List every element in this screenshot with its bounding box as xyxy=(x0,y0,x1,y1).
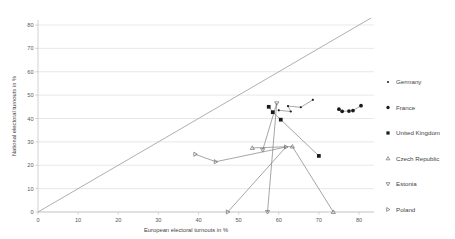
marker-united-kingdom-0 xyxy=(267,105,271,109)
y-tick-label-60: 60 xyxy=(27,69,33,75)
diagonal-reference-line xyxy=(38,18,371,212)
x-tick-label-40: 40 xyxy=(195,217,201,223)
x-tick-labels: 01020304050607080 xyxy=(36,217,362,223)
marker-france-2 xyxy=(347,109,351,113)
y-tick-label-0: 0 xyxy=(30,209,33,215)
legend-label-france: France xyxy=(396,104,416,111)
legend-label-united-kingdom: United Kingdom xyxy=(396,129,440,136)
y-tick-labels: 01020304050607080 xyxy=(27,22,33,215)
data-point-markers xyxy=(194,99,363,214)
x-tick-label-10: 10 xyxy=(75,217,81,223)
legend-label-poland: Poland xyxy=(396,206,416,213)
axis-lines xyxy=(36,20,375,215)
series-connector-lines xyxy=(195,100,361,212)
y-tick-label-50: 50 xyxy=(27,92,33,98)
legend-marker-germany xyxy=(387,81,389,83)
gridlines xyxy=(38,25,374,212)
scatter-chart: 01020304050607080 01020304050607080 Euro… xyxy=(0,0,455,239)
legend-marker-france xyxy=(386,106,389,109)
y-tick-label-30: 30 xyxy=(27,139,33,145)
connector-czech-republic xyxy=(252,147,333,212)
plot-area: 01020304050607080 01020304050607080 Euro… xyxy=(0,0,455,239)
x-tick-label-50: 50 xyxy=(236,217,242,223)
y-tick-label-20: 20 xyxy=(27,162,33,168)
marker-france-3 xyxy=(351,109,355,113)
legend-label-czech-republic: Czech Republic xyxy=(396,155,439,162)
y-tick-label-40: 40 xyxy=(27,116,33,122)
x-tick-label-60: 60 xyxy=(276,217,282,223)
y-axis-title: National electoral turnouts in % xyxy=(11,76,17,156)
y-tick-label-10: 10 xyxy=(27,186,33,192)
x-tick-label-0: 0 xyxy=(36,217,39,223)
y-tick-label-80: 80 xyxy=(27,22,33,28)
legend: GermanyFranceUnited KingdomCzech Republi… xyxy=(386,78,440,213)
marker-united-kingdom-1 xyxy=(271,110,275,114)
reference-diagonal-line xyxy=(38,18,371,212)
marker-france-0 xyxy=(337,107,341,111)
x-axis-title: European electoral turnouts in % xyxy=(144,227,228,233)
marker-germany-0 xyxy=(278,109,280,111)
marker-united-kingdom-3 xyxy=(317,154,321,158)
connector-estonia xyxy=(263,103,277,212)
legend-marker-united-kingdom xyxy=(386,131,389,134)
x-tick-label-30: 30 xyxy=(155,217,161,223)
x-tick-label-20: 20 xyxy=(115,217,121,223)
x-tick-label-80: 80 xyxy=(356,217,362,223)
legend-label-estonia: Estonia xyxy=(396,180,417,187)
legend-marker-poland xyxy=(387,208,390,212)
marker-germany-1 xyxy=(290,110,292,112)
legend-marker-estonia xyxy=(386,183,390,186)
y-tick-label-70: 70 xyxy=(27,45,33,51)
legend-marker-czech-republic xyxy=(386,157,390,160)
marker-france-4 xyxy=(359,104,363,108)
marker-france-1 xyxy=(340,109,344,113)
connector-germany xyxy=(279,100,313,112)
marker-united-kingdom-2 xyxy=(279,118,283,122)
marker-germany-4 xyxy=(312,99,314,101)
legend-label-germany: Germany xyxy=(396,78,422,85)
marker-germany-2 xyxy=(287,105,289,107)
marker-germany-3 xyxy=(300,106,302,108)
x-tick-label-70: 70 xyxy=(316,217,322,223)
